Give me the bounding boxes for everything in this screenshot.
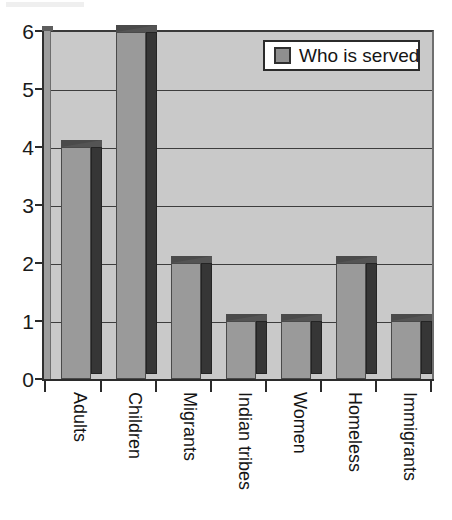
x-label-indian-tribes: Indian tribes bbox=[236, 392, 254, 490]
bar-top-migrants bbox=[171, 256, 212, 263]
bar-side-immigrants bbox=[421, 321, 432, 374]
bar-top-children bbox=[116, 25, 157, 32]
scan-artifact bbox=[6, 2, 84, 7]
bar-homeless bbox=[336, 30, 377, 379]
bar-top-indian-tribes bbox=[226, 314, 267, 321]
bar-top-homeless bbox=[336, 256, 377, 263]
bar-side-children bbox=[146, 32, 157, 374]
bar-chart: 6 5 4 3 2 1 0 bbox=[0, 0, 452, 520]
bar-side-women bbox=[311, 321, 322, 374]
x-tick-mark-0 bbox=[44, 381, 46, 392]
bar-front-migrants bbox=[171, 263, 201, 379]
bar-side-homeless bbox=[366, 263, 377, 374]
y-tick-label-1: 1 bbox=[0, 311, 34, 332]
x-label-immigrants: Immigrants bbox=[401, 392, 419, 481]
legend-swatch-icon bbox=[274, 47, 291, 64]
x-label-women: Women bbox=[291, 392, 309, 454]
bar-front-adults bbox=[61, 147, 91, 379]
x-tick-mark-4 bbox=[265, 381, 267, 392]
x-label-children: Children bbox=[126, 392, 144, 459]
bar-front-immigrants bbox=[391, 321, 421, 379]
bar-immigrants bbox=[391, 30, 432, 379]
y-tick-label-4: 4 bbox=[0, 137, 34, 158]
bar-top-women bbox=[281, 314, 322, 321]
y-tick-label-0: 0 bbox=[0, 369, 34, 390]
y-tick-label-2: 2 bbox=[0, 253, 34, 274]
chart-legend: Who is served bbox=[263, 40, 420, 71]
bar-front-women bbox=[281, 321, 311, 379]
x-tick-mark-2 bbox=[155, 381, 157, 392]
plot-left-wall-top bbox=[42, 26, 53, 31]
x-tick-mark-5 bbox=[320, 381, 322, 392]
bar-children bbox=[116, 30, 157, 379]
bar-migrants bbox=[171, 30, 212, 379]
x-label-homeless: Homeless bbox=[346, 392, 364, 472]
x-tick-mark-3 bbox=[210, 381, 212, 392]
x-label-migrants: Migrants bbox=[181, 392, 199, 461]
bar-women bbox=[281, 30, 322, 379]
bar-adults bbox=[61, 30, 102, 379]
x-label-adults: Adults bbox=[71, 392, 89, 442]
x-tick-mark-6 bbox=[375, 381, 377, 392]
bar-side-adults bbox=[91, 147, 102, 374]
bar-side-indian-tribes bbox=[256, 321, 267, 374]
bar-top-immigrants bbox=[391, 314, 432, 321]
plot-left-wall bbox=[42, 30, 51, 381]
x-tick-mark-1 bbox=[100, 381, 102, 392]
bar-indian-tribes bbox=[226, 30, 267, 379]
x-axis-category-labels: Adults Children Migrants Indian tribes W… bbox=[0, 392, 452, 520]
bar-side-migrants bbox=[201, 263, 212, 374]
x-tick-mark-7 bbox=[430, 381, 432, 392]
y-tick-label-3: 3 bbox=[0, 195, 34, 216]
bar-front-homeless bbox=[336, 263, 366, 379]
legend-label-who-is-served: Who is served bbox=[299, 46, 419, 65]
y-tick-label-6: 6 bbox=[0, 21, 34, 42]
bar-top-adults bbox=[61, 140, 102, 147]
bar-front-indian-tribes bbox=[226, 321, 256, 379]
bar-front-children bbox=[116, 32, 146, 379]
y-tick-label-5: 5 bbox=[0, 79, 34, 100]
